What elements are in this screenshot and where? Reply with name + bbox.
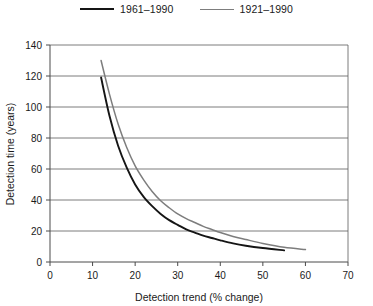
y-tick-label-120: 120: [25, 71, 42, 82]
x-tick-label-30: 30: [172, 270, 184, 281]
y-tick-label-0: 0: [36, 257, 42, 268]
x-tick-label-50: 50: [257, 270, 269, 281]
y-tick-label-100: 100: [25, 102, 42, 113]
x-axis-title: Detection trend (% change): [135, 291, 263, 303]
axis-lines: [50, 45, 348, 262]
x-tick-label-60: 60: [300, 270, 312, 281]
series-line-2: [101, 61, 305, 250]
x-tick-label-70: 70: [342, 270, 354, 281]
chart-canvas: 010203040506070020406080100120140 Detect…: [0, 0, 373, 306]
plot-area: 010203040506070020406080100120140 Detect…: [0, 0, 373, 306]
y-tick-label-20: 20: [31, 226, 43, 237]
x-tick-label-0: 0: [47, 270, 53, 281]
x-tick-label-20: 20: [130, 270, 142, 281]
data-series: [101, 61, 305, 251]
series-line-1: [101, 78, 284, 251]
grid-lines: [50, 45, 348, 231]
y-axis-title: Detection time (years): [4, 103, 16, 206]
y-tick-label-80: 80: [31, 133, 43, 144]
x-tick-label-40: 40: [215, 270, 227, 281]
y-tick-label-60: 60: [31, 164, 43, 175]
y-tick-label-140: 140: [25, 40, 42, 51]
chart-figure: 1961–1990 1921–1990 01020304050607002040…: [0, 0, 373, 306]
y-tick-label-40: 40: [31, 195, 43, 206]
x-tick-label-10: 10: [87, 270, 99, 281]
